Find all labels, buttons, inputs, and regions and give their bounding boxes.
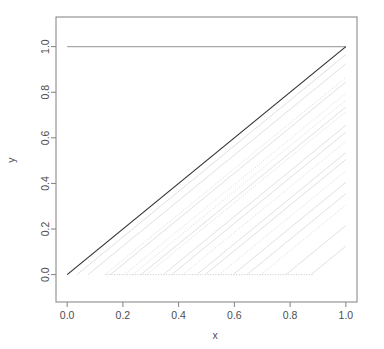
x-tick-label: 0.4 <box>171 309 186 321</box>
y-tick-label: 0.6 <box>39 130 51 145</box>
x-tick-label: 0.8 <box>283 309 298 321</box>
y-tick-label: 1.0 <box>39 39 51 54</box>
x-tick-label: 0.0 <box>60 309 75 321</box>
y-tick-label: 0.0 <box>39 267 51 282</box>
x-axis-title: x <box>212 329 218 341</box>
y-tick-label: 0.4 <box>39 176 51 191</box>
chart-canvas: 0.00.20.40.60.81.0 0.00.20.40.60.81.0 x … <box>0 0 384 349</box>
x-tick-label: 1.0 <box>339 309 354 321</box>
line-chart-svg: 0.00.20.40.60.81.0 0.00.20.40.60.81.0 x … <box>0 0 384 349</box>
x-tick-label: 0.6 <box>227 309 242 321</box>
x-tick-label: 0.2 <box>116 309 131 321</box>
y-tick-label: 0.2 <box>39 222 51 237</box>
chart-background <box>0 0 384 349</box>
y-axis-title: y <box>5 157 17 163</box>
y-tick-label: 0.8 <box>39 85 51 100</box>
